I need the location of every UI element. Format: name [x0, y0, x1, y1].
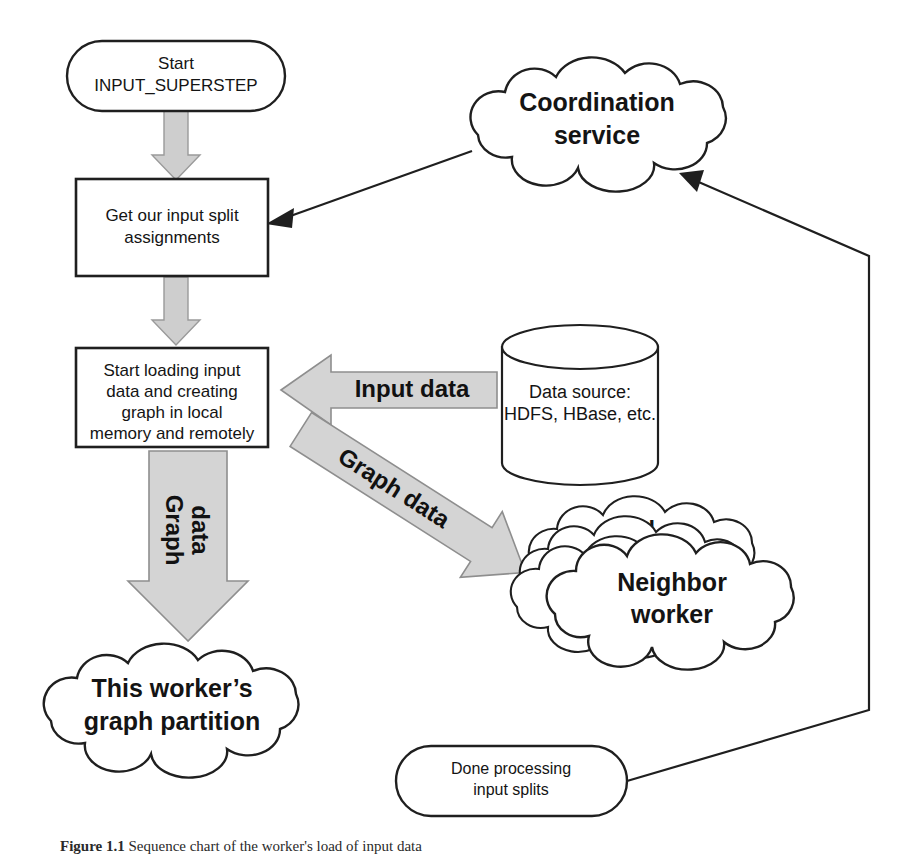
coordination-service-cloud[interactable]: Coordination service — [470, 57, 725, 191]
start-terminator-line2: INPUT_SUPERSTEP — [94, 76, 257, 95]
get-splits-line2: assignments — [124, 228, 219, 247]
figure-caption-label: Figure 1.1 — [60, 838, 125, 854]
data-source-line1: Data source: — [529, 382, 631, 402]
figure-diagram: Input data Graph data Graph data Start I… — [0, 0, 912, 857]
data-source-cylinder[interactable]: Data source: HDFS, HBase, etc. — [502, 325, 658, 485]
get-input-split-assignments[interactable]: Get our input split assignments — [76, 179, 268, 276]
flow-arrow-splits-to-load — [152, 277, 200, 345]
coordination-line2: service — [554, 121, 640, 149]
this-workers-graph-partition-cloud[interactable]: This worker’s graph partition — [44, 644, 299, 778]
neighbor-worker-cloud[interactable]: N N N Neighbor worker — [511, 496, 794, 669]
load-data-line2: data and creating — [106, 382, 237, 401]
load-data-line4: memory and remotely — [90, 424, 255, 443]
get-splits-line1: Get our input split — [105, 206, 239, 225]
connector-done-to-coordination — [627, 170, 869, 781]
graph-data-vertical-label-line2: data — [187, 505, 214, 555]
partition-line1: This worker’s — [91, 674, 252, 702]
start-loading-input-data[interactable]: Start loading input data and creating gr… — [76, 348, 268, 447]
input-data-label: Input data — [355, 375, 470, 402]
graph-data-vertical-block-arrow: Graph data — [128, 451, 248, 641]
data-source-line2: HDFS, HBase, etc. — [504, 404, 656, 424]
coordination-line1: Coordination — [519, 88, 675, 116]
load-data-line3: graph in local — [121, 403, 222, 422]
flowchart-canvas: Input data Graph data Graph data Start I… — [0, 0, 912, 857]
start-terminator-line1: Start — [158, 54, 194, 73]
figure-caption: Figure 1.1 Sequence chart of the worker'… — [60, 838, 422, 855]
flow-arrow-start-to-splits — [152, 110, 200, 180]
figure-caption-text: Sequence chart of the worker's load of i… — [128, 838, 421, 854]
neighbor-worker-line2: worker — [630, 600, 713, 628]
done-processing-terminator[interactable]: Done processing input splits — [396, 746, 627, 816]
done-line1: Done processing — [451, 760, 571, 777]
partition-line2: graph partition — [84, 707, 260, 735]
connector-coordination-to-splits — [266, 151, 472, 228]
done-line2: input splits — [473, 781, 549, 798]
start-terminator[interactable]: Start INPUT_SUPERSTEP — [67, 41, 285, 111]
neighbor-worker-line1: Neighbor — [617, 568, 727, 596]
graph-data-diagonal-label: Graph data — [334, 442, 456, 533]
load-data-line1: Start loading input — [103, 361, 240, 380]
graph-data-vertical-label-line1: Graph — [161, 495, 188, 566]
